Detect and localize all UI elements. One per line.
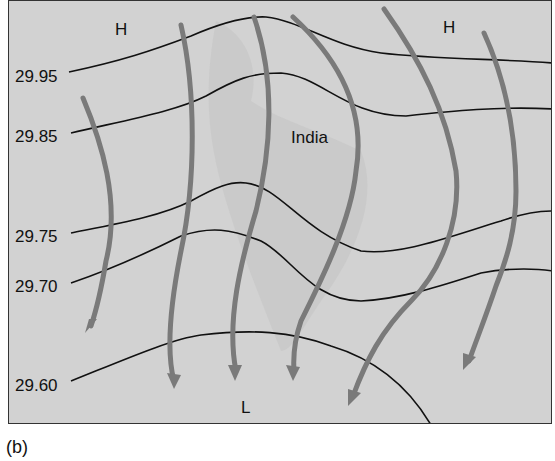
arrowhead-icon	[228, 365, 242, 381]
figure-caption: (b)	[6, 437, 28, 458]
wind-arrow-5	[353, 9, 457, 396]
isobar-label: 29.60	[15, 377, 58, 394]
arrowhead-icon	[348, 389, 361, 406]
wind-arrow-6	[469, 33, 516, 361]
isobar-29.85	[71, 73, 552, 133]
wind-arrow-1	[83, 98, 111, 326]
isobar-label: 29.85	[15, 128, 58, 145]
arrowhead-icon	[286, 365, 300, 381]
isobar-label: 29.75	[15, 228, 58, 245]
low-pressure-label: L	[241, 399, 250, 416]
arrowhead-icon	[463, 353, 476, 370]
region-label-india: India	[291, 129, 328, 146]
isobar-label: 29.95	[15, 68, 58, 85]
high-pressure-label: H	[115, 21, 127, 38]
isobar-29.95	[69, 17, 552, 72]
high-pressure-label: H	[443, 19, 455, 36]
map-frame: H H L India 29.95 29.85 29.75 29.70 29.6…	[8, 0, 552, 424]
india-landmass	[209, 21, 368, 351]
arrowhead-icon	[85, 319, 97, 333]
wind-arrow-2	[170, 25, 192, 381]
isobar-label: 29.70	[15, 278, 58, 295]
weather-map	[9, 1, 552, 424]
arrowhead-icon	[167, 373, 181, 389]
